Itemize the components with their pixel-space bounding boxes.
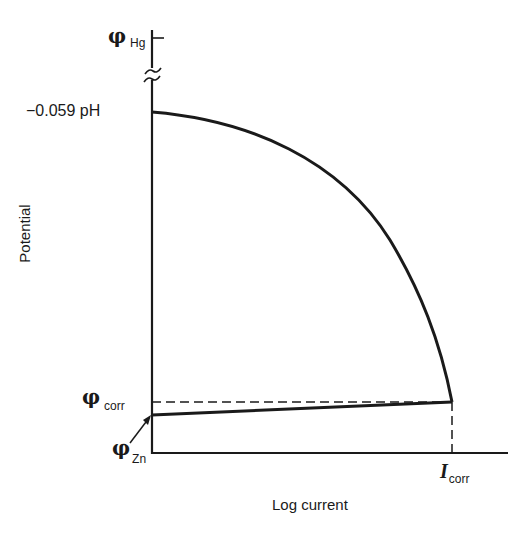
anodic-line (152, 402, 452, 415)
phi-corr-label: φcorr (82, 385, 125, 409)
y-axis-title: Potential (16, 204, 33, 262)
phi-symbol: φ (108, 24, 126, 48)
phi-symbol: φ (82, 385, 100, 409)
diagram-canvas (0, 0, 530, 539)
i-corr-label: Icorr (440, 460, 469, 483)
i-symbol: I (440, 460, 448, 482)
phi-symbol: φ (112, 436, 130, 460)
axis-break-top (145, 68, 161, 74)
cathodic-curve (152, 112, 452, 402)
phi-hg-label: φHg (108, 24, 145, 48)
ph-level-label: −0.059 pH (26, 102, 100, 120)
phi-hg-subscript: Hg (130, 36, 145, 50)
phi-corr-subscript: corr (104, 399, 125, 413)
phi-zn-label: φZn (112, 436, 146, 460)
x-axis-title: Log current (272, 496, 348, 513)
i-corr-subscript: corr (449, 472, 470, 486)
phi-zn-subscript: Zn (132, 452, 146, 466)
